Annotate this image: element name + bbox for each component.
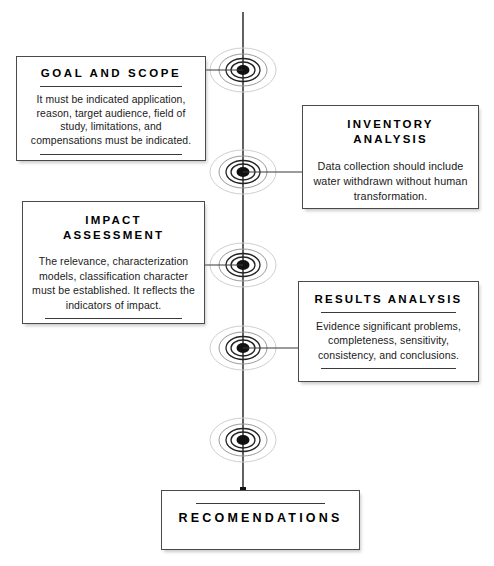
callout-body-inventory-analysis: Data collection should include water wit… — [312, 159, 469, 204]
callout-recommendations: RECOMENDATIONS — [161, 490, 360, 550]
callout-inventory-analysis: INVENTORY ANALYSIS Data collection shoul… — [302, 105, 479, 209]
divider-recommendations-top — [196, 503, 325, 504]
callout-impact-assessment: IMPACT ASSESSMENT The relevance, charact… — [22, 201, 205, 324]
callout-title-results-analysis: RESULTS ANALYSIS — [308, 292, 469, 307]
callout-goal-and-scope: GOAL AND SCOPE It must be indicated appl… — [16, 56, 206, 161]
diagram-canvas: GOAL AND SCOPE It must be indicated appl… — [0, 0, 494, 566]
callout-body-results-analysis: Evidence significant problems, completen… — [308, 319, 469, 362]
divider-results-bottom — [321, 368, 456, 369]
callout-title-inventory-analysis: INVENTORY ANALYSIS — [312, 117, 469, 146]
callout-body-impact-assessment: The relevance, characterization models, … — [32, 254, 195, 312]
callout-results-analysis: RESULTS ANALYSIS Evidence significant pr… — [298, 281, 479, 382]
callout-title-goal-and-scope: GOAL AND SCOPE — [26, 66, 196, 81]
callout-title-impact-assessment: IMPACT ASSESSMENT — [32, 213, 195, 242]
divider-goal-bottom — [40, 154, 183, 155]
divider-impact-bottom — [45, 318, 182, 319]
callout-title-recommendations: RECOMENDATIONS — [171, 510, 350, 526]
callout-body-goal-and-scope: It must be indicated application, reason… — [26, 93, 196, 148]
divider-goal-top — [40, 86, 183, 87]
divider-results-top — [321, 312, 456, 313]
